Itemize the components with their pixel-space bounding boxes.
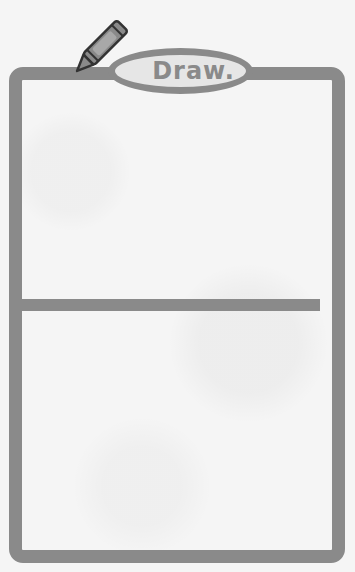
drawing-panel-bottom[interactable] [22,311,318,537]
drawing-panel-top[interactable] [22,80,318,299]
crayon-icon [64,14,134,84]
panel-divider [22,299,320,311]
draw-label: Draw. [152,57,235,85]
